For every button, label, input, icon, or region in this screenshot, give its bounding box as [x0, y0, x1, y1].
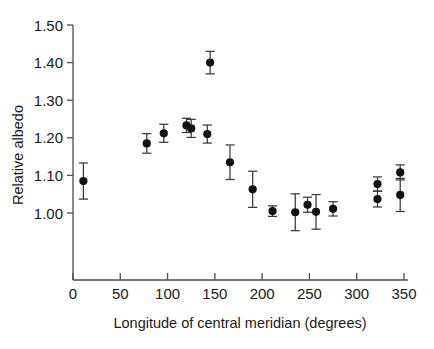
data-point-marker — [303, 201, 311, 209]
y-tick-label: 1.30 — [34, 92, 63, 109]
x-tick-label: 150 — [202, 285, 227, 302]
data-point-marker — [268, 207, 276, 215]
data-point-marker — [249, 185, 257, 193]
x-tick-label: 200 — [250, 285, 275, 302]
y-tick-label: 1.50 — [34, 17, 63, 34]
x-tick-label: 250 — [297, 285, 322, 302]
data-point-marker — [373, 180, 381, 188]
data-point-marker — [226, 158, 234, 166]
y-axis-title: Relative albedo — [10, 105, 26, 205]
data-point-marker — [79, 177, 87, 185]
x-axis-title: Longitude of central meridian (degrees) — [113, 315, 366, 331]
data-point-marker — [143, 139, 151, 147]
scatter-plot-with-error-bars: 1.001.101.201.301.401.50 050100150200250… — [0, 0, 434, 349]
y-tick-label: 1.00 — [34, 205, 63, 222]
x-tick-label: 350 — [391, 285, 416, 302]
x-tick-label: 0 — [69, 285, 77, 302]
data-point-marker — [396, 191, 404, 199]
x-tick-label: 300 — [344, 285, 369, 302]
data-point-marker — [206, 59, 214, 67]
chart-figure: 1.001.101.201.301.401.50 050100150200250… — [0, 0, 434, 349]
data-point-marker — [396, 168, 404, 176]
x-tick-label: 50 — [112, 285, 129, 302]
data-point-marker — [291, 208, 299, 216]
x-tick-label: 100 — [155, 285, 180, 302]
y-tick-label: 1.40 — [34, 54, 63, 71]
data-point-marker — [203, 130, 211, 138]
data-point-marker — [373, 195, 381, 203]
y-tick-label: 1.20 — [34, 129, 63, 146]
data-point-marker — [160, 129, 168, 137]
data-point-marker — [329, 205, 337, 213]
data-point-marker — [312, 208, 320, 216]
data-point-marker — [187, 124, 195, 132]
y-tick-label: 1.10 — [34, 167, 63, 184]
